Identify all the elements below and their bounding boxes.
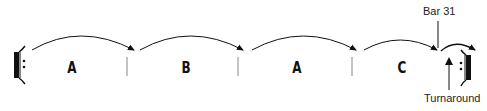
section-arrow (140, 36, 243, 50)
section-label-a1: A (67, 59, 76, 77)
section-label-a2: A (292, 59, 301, 77)
section-arrow (252, 36, 356, 50)
start-repeat-icon (14, 46, 25, 84)
section-label-c: C (398, 59, 407, 77)
section-arrow (364, 40, 437, 50)
form-diagram (0, 0, 487, 111)
turnaround-label: Turnaround (424, 92, 480, 104)
end-repeat-icon (460, 50, 471, 86)
section-arrow (32, 36, 134, 50)
turnaround-arrow (441, 44, 475, 51)
bar-31-label: Bar 31 (423, 5, 455, 17)
section-label-b: B (181, 59, 190, 77)
